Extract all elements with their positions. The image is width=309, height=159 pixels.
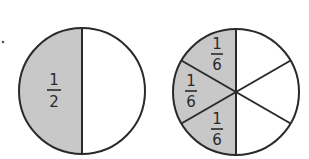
numerator: 1 [212,110,222,128]
fraction-label-sixth-bottom: 1 6 [211,110,223,149]
numerator: 1 [212,35,222,53]
fraction-label-sixth-top: 1 6 [211,35,223,74]
shaded-three-sixths [173,29,236,155]
numerator: 1 [186,72,196,90]
fraction-label-sixth-middle: 1 6 [185,72,197,111]
shaded-half [19,28,82,154]
denominator: 6 [212,131,222,149]
sixths-circle: 1 6 1 6 1 6 [173,29,299,155]
fraction-circles-diagram: 1 2 1 6 1 6 1 6 [0,0,309,159]
denominator: 6 [186,93,196,111]
numerator: 1 [49,71,59,89]
denominator: 6 [212,56,222,74]
denominator: 2 [49,93,59,111]
stray-mark [2,41,5,44]
halves-circle: 1 2 [19,28,145,154]
